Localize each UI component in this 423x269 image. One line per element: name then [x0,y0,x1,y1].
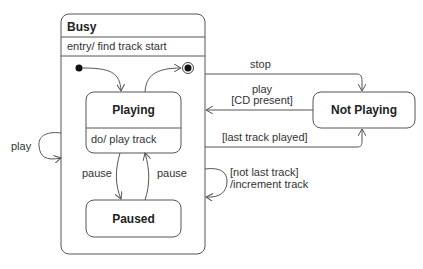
state-not-playing: Not Playing [313,92,415,128]
transition-stop [205,74,362,91]
play-cd-label-line2: [CD present] [231,94,293,106]
playing-activity: do/ play track [91,133,157,145]
not-last-track-label-line1: [not last track] [230,166,298,178]
busy-title: Busy [67,20,97,34]
not-last-track-label-line2: /increment track [230,178,309,190]
stop-label: stop [250,58,271,70]
initial-state-icon [76,65,83,72]
state-paused: Paused [86,200,181,237]
state-diagram: Busy entry/ find track start Playing do/… [0,0,423,269]
state-playing: Playing do/ play track [86,92,181,153]
final-state-icon [183,63,194,74]
playing-title: Playing [112,103,155,117]
pause-label-down: pause [82,167,112,179]
busy-entry-action: entry/ find track start [67,40,167,52]
transition-busy-self-play [39,133,61,159]
last-track-label: [last track played] [222,131,308,143]
play-self-label: play [11,140,32,152]
transition-not-last-track [205,169,227,198]
paused-title: Paused [112,212,155,226]
not-playing-title: Not Playing [331,103,397,117]
pause-label-up: pause [157,167,187,179]
